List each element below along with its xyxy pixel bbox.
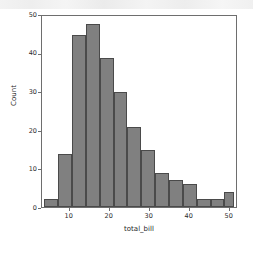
ytick-label-40: 40 xyxy=(7,50,37,57)
histogram-bar xyxy=(141,150,155,207)
histogram-bar xyxy=(127,127,141,207)
histogram-bar xyxy=(197,199,211,207)
ytick-label-50: 50 xyxy=(7,12,37,19)
xtick-mark-50 xyxy=(229,208,230,211)
histogram-bar xyxy=(86,24,100,207)
xtick-mark-20 xyxy=(109,208,110,211)
plot-area xyxy=(41,15,237,208)
xtick-label-30: 30 xyxy=(137,213,161,220)
histogram-bar xyxy=(114,92,128,207)
ytick-label-10: 10 xyxy=(7,166,37,173)
xtick-mark-30 xyxy=(149,208,150,211)
histogram-bar xyxy=(72,35,86,207)
xtick-label-50: 50 xyxy=(217,213,241,220)
y-axis-label: Count xyxy=(11,68,18,124)
histogram-bar xyxy=(155,173,169,207)
histogram-bar xyxy=(183,184,197,207)
histogram-bar xyxy=(169,180,183,207)
ytick-mark-0 xyxy=(38,208,41,209)
histogram-bars xyxy=(42,16,236,207)
top-banner-strip xyxy=(0,0,253,9)
histogram-bar xyxy=(44,199,58,207)
xtick-label-40: 40 xyxy=(177,213,201,220)
histogram-figure: 50 40 30 20 10 0 10 20 30 40 50 total_bi… xyxy=(0,0,253,255)
ytick-label-20: 20 xyxy=(7,128,37,135)
x-axis-label: total_bill xyxy=(41,226,237,233)
histogram-bar xyxy=(211,199,225,207)
histogram-bar xyxy=(100,58,114,207)
xtick-label-20: 20 xyxy=(97,213,121,220)
xtick-label-10: 10 xyxy=(57,213,81,220)
xtick-mark-40 xyxy=(189,208,190,211)
histogram-bar xyxy=(224,192,234,207)
ytick-label-0: 0 xyxy=(7,205,37,212)
histogram-bar xyxy=(58,154,72,207)
xtick-mark-10 xyxy=(69,208,70,211)
